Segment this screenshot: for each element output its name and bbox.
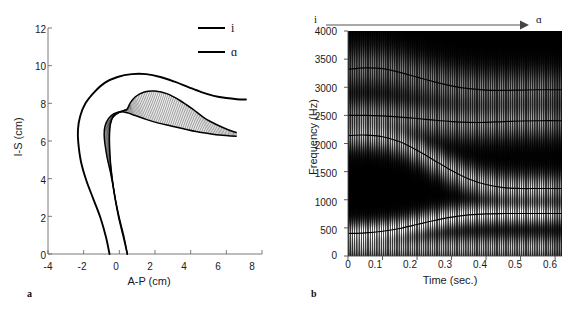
panel-a-ytick-2: 2 [30, 213, 46, 224]
panel-b-spectrogram: i ɑ 4000 3500 3000 2500 2000 1500 1000 5… [290, 0, 584, 314]
panel-a-xtick-6: 6 [208, 261, 228, 272]
panel-a-xtick-4: 4 [174, 261, 194, 272]
panel-a-xtick-2: 2 [140, 261, 160, 272]
panel-a-xlabel: A-P (cm) [104, 275, 194, 287]
panel-a-ytick-12: 12 [24, 24, 46, 35]
panel-a-xtick-8: 8 [242, 261, 262, 272]
panel-a-ylabel: I-S (cm) [12, 105, 24, 169]
panel-a-ytick-6: 6 [30, 137, 46, 148]
panel-a-ytick-0: 0 [30, 250, 46, 261]
panel-a-ytick-4: 4 [30, 175, 46, 186]
panel-a-ytick-10: 10 [24, 61, 46, 72]
panel-a-letter: a [27, 288, 32, 299]
panel-a-xtick-0: 0 [106, 261, 126, 272]
panel-a-vocal-tract: 12 10 8 6 4 2 0 -4 -2 0 2 4 6 8 I-S (cm)… [0, 0, 300, 314]
figure-container: 12 10 8 6 4 2 0 -4 -2 0 2 4 6 8 I-S (cm)… [0, 0, 584, 314]
panel-a-ytick-8: 8 [30, 99, 46, 110]
panel-a-xtick-neg4: -4 [38, 261, 58, 272]
panel-a-legend-label-a: ɑ [231, 45, 237, 60]
panel-a-legend-label-i: i [231, 21, 234, 36]
panel-a-xtick-neg2: -2 [72, 261, 92, 272]
panel-b-plot [290, 0, 584, 314]
